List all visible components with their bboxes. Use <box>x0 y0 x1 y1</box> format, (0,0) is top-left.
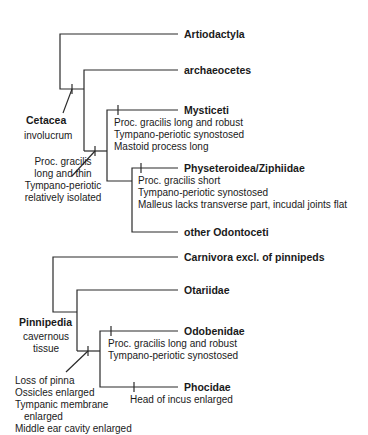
character-line: Loss of pinna <box>15 375 132 387</box>
character-line: Ossicles enlarged <box>15 387 132 399</box>
cetacea-pointer <box>63 89 72 113</box>
taxon-carnivora: Carnivora excl. of pinnipeds <box>184 251 325 263</box>
taxon-physeteroidea-ziphiidae: Physeteroidea/Ziphiidae <box>184 162 305 174</box>
taxon-otariidae: Otariidae <box>184 284 230 296</box>
character-line: relatively isolated <box>18 192 108 204</box>
phocidae-characters: Head of incus enlarged <box>130 394 233 406</box>
character-line: cavernous <box>18 331 74 343</box>
character-line: Head of incus enlarged <box>130 394 233 406</box>
character-line: tissue <box>18 343 74 355</box>
character-line: Tympano-periotic <box>18 180 108 192</box>
taxon-phocidae: Phocidae <box>184 381 231 393</box>
mysticeti-characters: Proc. gracilis long and robust Tympano-p… <box>114 117 244 153</box>
taxon-artiodactyla: Artiodactyla <box>184 28 245 40</box>
cetacea-character: involucrum <box>24 130 72 142</box>
character-line: Tympano-periotic synostosed <box>114 129 244 141</box>
pinnipedia-character: cavernous tissue <box>18 331 74 355</box>
character-line: enlarged <box>15 411 132 423</box>
odobenidae-characters: Proc. gracilis long and robust Tympano-p… <box>108 338 238 362</box>
cetacea-root-characters: Proc. gracilis long and thin Tympano-per… <box>18 156 108 204</box>
character-line: Proc. gracilis long and robust <box>114 117 244 129</box>
taxon-odobenidae: Odobenidae <box>184 325 245 337</box>
character-line: Malleus lacks transverse part, incudal j… <box>138 199 347 211</box>
pinnipedia-root-characters: Loss of pinna Ossicles enlarged Tympanic… <box>15 375 132 435</box>
character-line: Proc. gracilis long and robust <box>108 338 238 350</box>
character-line: Tympano-periotic synostosed <box>108 350 238 362</box>
taxon-other-odontoceti: other Odontoceti <box>184 226 269 238</box>
character-line: Tympano-periotic synostosed <box>138 187 347 199</box>
taxon-mysticeti: Mysticeti <box>184 104 229 116</box>
character-line: Middle ear cavity enlarged <box>15 423 132 435</box>
character-line: long and thin <box>18 168 108 180</box>
clade-pinnipedia: Pinnipedia <box>19 316 72 328</box>
character-line: Proc. gracilis <box>18 156 108 168</box>
character-line: Proc. gracilis short <box>138 175 347 187</box>
character-line: Tympanic membrane <box>15 399 132 411</box>
taxon-archaeocetes: archaeocetes <box>184 64 251 76</box>
character-line: Mastoid process long <box>114 141 244 153</box>
physeteroidea-characters: Proc. gracilis short Tympano-periotic sy… <box>138 175 347 211</box>
clade-cetacea: Cetacea <box>26 114 66 126</box>
